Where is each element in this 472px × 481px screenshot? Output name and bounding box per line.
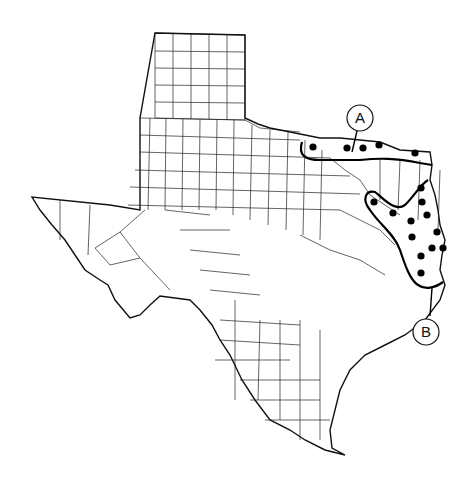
county-dot <box>428 244 435 251</box>
county-grid <box>60 33 440 440</box>
region-b: B <box>370 184 446 345</box>
region-label: A <box>355 109 365 126</box>
county-dot <box>407 217 414 224</box>
region-label: B <box>421 323 431 340</box>
region-a: A <box>309 105 418 157</box>
county-dot <box>433 228 440 235</box>
regions-layer: AB <box>309 105 446 345</box>
leader-line <box>352 131 357 152</box>
county-dot <box>309 143 316 150</box>
county-dot <box>417 269 424 276</box>
county-dot <box>343 144 350 151</box>
county-dot <box>370 198 377 205</box>
county-dot <box>423 211 430 218</box>
county-dot <box>417 252 424 259</box>
county-dot <box>411 149 418 156</box>
texas-county-map: AB <box>0 0 472 481</box>
county-dot <box>375 141 382 148</box>
region-b-boundary <box>365 180 443 288</box>
county-dot <box>418 198 425 205</box>
texas-outline <box>32 33 445 455</box>
county-dot <box>359 144 366 151</box>
county-dot <box>439 244 446 251</box>
county-dot <box>417 184 424 191</box>
county-dot <box>408 233 415 240</box>
county-dot <box>389 209 396 216</box>
